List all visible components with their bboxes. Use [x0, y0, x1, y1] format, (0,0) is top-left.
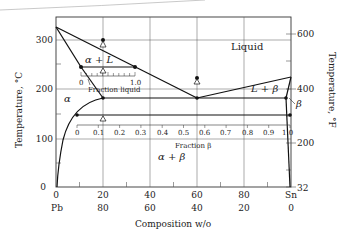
fraction-liquid-start: 0	[79, 79, 83, 87]
svg-text:0.1: 0.1	[93, 129, 104, 137]
fraction-beta-scale: 0 0.1 0.2 0.3 0.4 0.5 0.6 0.7 0.8 0.9 1.…	[75, 125, 293, 150]
right-tick-400: 400	[297, 84, 314, 94]
bottom-ticks-sn: 0 20 40 60 80 Sn	[53, 190, 297, 200]
label-alpha-plus-l: α + L	[85, 54, 113, 65]
svg-text:20: 20	[97, 190, 109, 200]
left-tick-100: 100	[36, 134, 53, 144]
label-l-plus-beta: L + β	[250, 83, 278, 94]
label-beta: β	[295, 98, 302, 109]
svg-text:60: 60	[144, 203, 156, 213]
svg-text:80: 80	[97, 203, 109, 213]
right-tick-200: 200	[297, 138, 314, 148]
beta-pointer	[289, 98, 295, 104]
svg-text:80: 80	[238, 190, 250, 200]
beta-solvus	[286, 98, 290, 187]
fraction-liquid-scale: 0 1.0 Fraction liquid	[79, 72, 141, 94]
svg-text:0.8: 0.8	[242, 129, 253, 137]
svg-text:60: 60	[191, 190, 203, 200]
svg-text:40: 40	[191, 203, 203, 213]
label-alpha: α	[64, 93, 71, 104]
pb-sn-phase-diagram: 0 1.0 Fraction liquid 0 0.1 0.2 0.3 0.4 …	[0, 0, 346, 243]
svg-text:0.4: 0.4	[157, 129, 169, 137]
svg-text:0.3: 0.3	[135, 129, 146, 137]
right-tick-600: 600	[297, 29, 314, 39]
svg-text:1.0: 1.0	[282, 129, 293, 137]
svg-text:Sn: Sn	[285, 190, 297, 200]
right-axis-title: Temperature, °F	[327, 52, 337, 127]
svg-text:20: 20	[238, 203, 250, 213]
fraction-liquid-label: Fraction liquid	[88, 86, 141, 94]
svg-text:0: 0	[75, 129, 79, 137]
x-axis-title: Composition w/o	[135, 219, 211, 229]
beta-solidus	[286, 77, 291, 98]
bottom-minor-ticks	[80, 182, 268, 187]
left-minor-ticks	[56, 64, 61, 163]
label-liquid: Liquid	[231, 41, 264, 52]
label-alpha-plus-beta: α + β	[158, 151, 185, 162]
svg-text:0.9: 0.9	[263, 129, 274, 137]
left-tick-300: 300	[36, 35, 53, 45]
svg-text:Pb: Pb	[51, 203, 63, 213]
left-tick-0: 0	[40, 182, 46, 192]
svg-text:0.2: 0.2	[114, 129, 125, 137]
svg-text:0.5: 0.5	[178, 129, 189, 137]
svg-text:0.6: 0.6	[199, 129, 211, 137]
left-axis-title: Temperature, °C	[14, 72, 24, 148]
alpha-solvus	[57, 98, 103, 187]
svg-text:0.7: 0.7	[220, 129, 231, 137]
svg-text:40: 40	[144, 190, 156, 200]
svg-text:0: 0	[53, 190, 59, 200]
left-tick-200: 200	[36, 84, 53, 94]
page-edge	[0, 0, 205, 10]
svg-text:0: 0	[288, 203, 294, 213]
fraction-beta-label: Fraction β	[175, 142, 211, 150]
right-tick-32: 32	[297, 183, 308, 193]
bottom-ticks-pb: Pb 80 60 40 20 0	[51, 203, 294, 213]
fraction-beta-ticks: 0 0.1 0.2 0.3 0.4 0.5 0.6 0.7 0.8 0.9 1.…	[75, 129, 293, 137]
